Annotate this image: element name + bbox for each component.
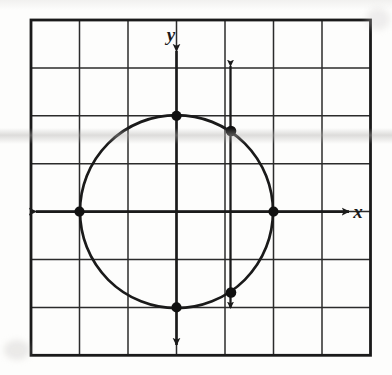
point-circle-top-intercept [171, 111, 181, 121]
paper-background [0, 0, 392, 375]
point-line-lower-intersection [226, 287, 237, 298]
x-axis-label: x [352, 201, 363, 222]
coordinate-grid-figure: x y [0, 0, 392, 375]
y-axis-label: y [165, 24, 176, 45]
point-line-upper-intersection [226, 126, 237, 137]
point-circle-bottom-intercept [171, 302, 181, 312]
point-circle-left-intercept [74, 207, 84, 217]
point-circle-right-intercept [268, 207, 278, 217]
figure-container: x y [0, 0, 392, 375]
